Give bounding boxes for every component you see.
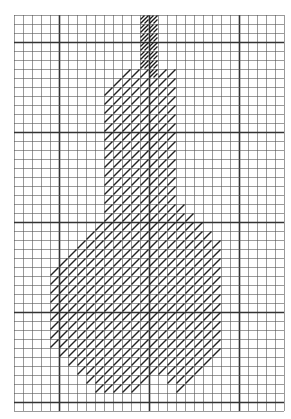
grid-lines <box>14 15 285 412</box>
pattern-grid <box>0 0 291 419</box>
hatched-fill <box>51 16 221 393</box>
cross-stitch-chart <box>0 0 291 419</box>
